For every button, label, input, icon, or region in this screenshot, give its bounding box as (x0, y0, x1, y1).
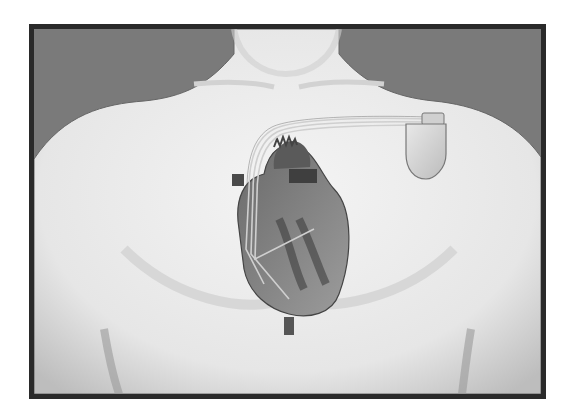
chest-illustration (34, 29, 541, 394)
illustration-frame (29, 24, 546, 399)
